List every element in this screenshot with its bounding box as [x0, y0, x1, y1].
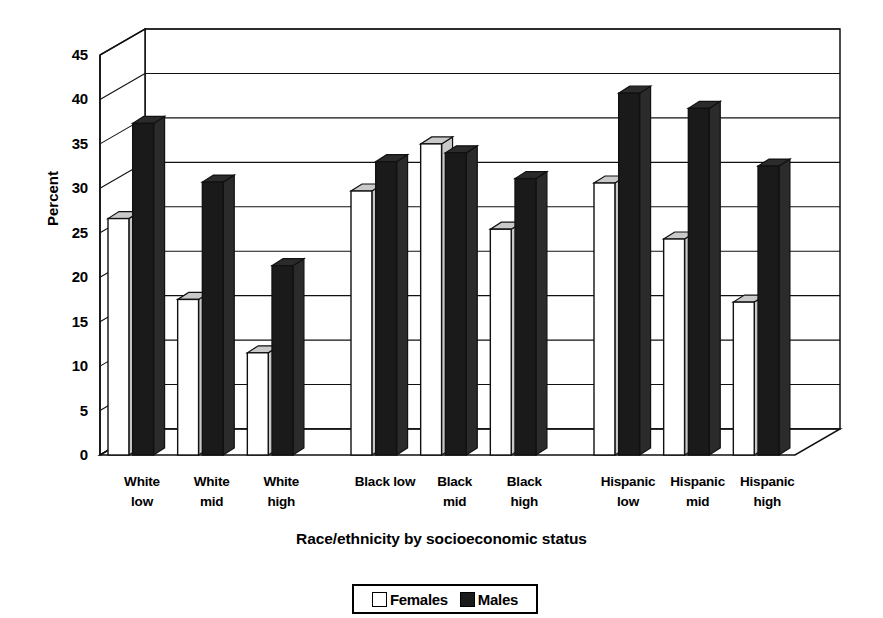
bar-males-4-front-face: [445, 153, 466, 455]
legend-item-males: Males: [460, 592, 518, 607]
bar-females-2-front-face: [247, 353, 268, 455]
bar-males-0-front-face: [133, 123, 154, 455]
x-axis-title: Race/ethnicity by socioeconomic status: [0, 530, 883, 548]
x-category-label-line1: Black: [507, 474, 542, 489]
x-category-label-line1: White: [263, 474, 299, 489]
x-category-label-line1: Hispanic: [740, 474, 795, 489]
bar-males-1-front-face: [202, 182, 223, 455]
bar-males-6: [619, 86, 651, 455]
bar-females-0-front-face: [108, 219, 129, 455]
bar-males-2: [272, 259, 304, 455]
bar-males-5-front-face: [515, 179, 536, 455]
x-category-label-2: Whitehigh: [233, 472, 329, 512]
bar-males-2-front-face: [272, 266, 293, 455]
x-category-label-line1: White: [124, 474, 160, 489]
bar-males-1: [202, 175, 234, 455]
bar-males-4: [445, 146, 477, 455]
x-category-label-line1: Hispanic: [601, 474, 656, 489]
legend-label-males: Males: [478, 592, 518, 607]
bar-females-7-front-face: [664, 239, 685, 455]
legend-item-females: Females: [372, 592, 448, 607]
x-category-label-line2: high: [233, 492, 329, 512]
plot-area: [0, 0, 883, 618]
bar-males-5: [515, 172, 547, 455]
bar-males-8-front-face: [758, 166, 779, 455]
x-category-label-line2: high: [719, 492, 815, 512]
x-category-label-line1: Black: [437, 474, 472, 489]
bar-males-3-side-face: [397, 155, 408, 455]
bar-chart: Percent 454035302520151050 WhitelowWhite…: [0, 0, 883, 618]
bar-males-0-side-face: [154, 116, 165, 455]
bar-females-4-front-face: [421, 144, 442, 455]
bar-females-8-front-face: [733, 302, 754, 455]
bar-males-8: [758, 159, 790, 455]
bar-females-5-front-face: [490, 229, 511, 455]
white-square-swatch: [372, 592, 387, 607]
bar-males-0: [133, 116, 165, 455]
bar-males-4-side-face: [466, 146, 477, 455]
x-category-label-5: Blackhigh: [476, 472, 572, 512]
x-category-label-line1: Hispanic: [670, 474, 725, 489]
bar-males-8-side-face: [779, 159, 790, 455]
x-category-label-line1: White: [194, 474, 230, 489]
bar-males-3: [376, 155, 408, 455]
x-category-label-line2: high: [476, 492, 572, 512]
bar-males-1-side-face: [223, 175, 234, 455]
bar-males-2-side-face: [293, 259, 304, 455]
bar-females-1-front-face: [178, 299, 199, 455]
bar-females-6-front-face: [594, 183, 615, 455]
bar-males-6-side-face: [640, 86, 651, 455]
x-category-label-8: Hispanichigh: [719, 472, 815, 512]
bar-males-3-front-face: [376, 162, 397, 455]
bar-males-7: [688, 101, 720, 455]
black-square-swatch: [460, 592, 475, 607]
bar-males-6-front-face: [619, 93, 640, 455]
bar-males-5-side-face: [536, 172, 547, 455]
bar-females-3-front-face: [351, 191, 372, 455]
bar-males-7-side-face: [709, 101, 720, 455]
legend-label-females: Females: [390, 592, 448, 607]
chart-legend: Females Males: [352, 584, 538, 614]
bar-males-7-front-face: [688, 108, 709, 455]
